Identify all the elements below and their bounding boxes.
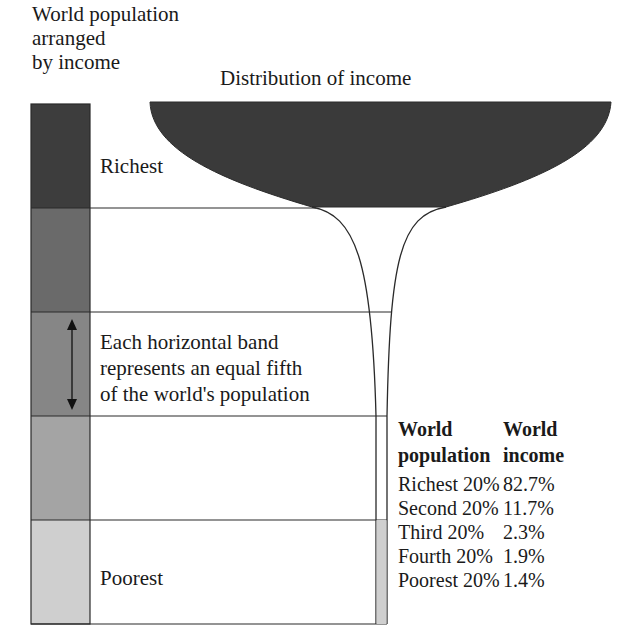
annotation-line: represents an equal fifth [100,355,310,381]
population-cell: Fourth 20% [398,544,503,568]
stem-poorest-fill [377,520,387,624]
population-cell: Second 20% [398,496,503,520]
table-row: Richest 20% 82.7% [398,472,613,496]
header-world-population: World population [398,416,503,468]
annotation-line: of the world's population [100,381,310,407]
band-fourth [31,416,90,520]
band-poorest [31,520,90,624]
band-second [31,208,90,312]
header-line: population [398,442,503,468]
table-header-row: World population World income [398,416,613,468]
label-poorest: Poorest [100,565,163,591]
label-richest: Richest [100,153,163,179]
header-line: income [503,442,613,468]
income-table: World population World income Richest 20… [398,416,613,592]
header-world-income: World income [503,416,613,468]
header-line: World [398,416,503,442]
population-cell: Richest 20% [398,472,503,496]
table-row: Third 20% 2.3% [398,520,613,544]
funnel-bowl-richest [150,102,611,207]
income-cell: 1.4% [503,568,613,592]
table-row: Second 20% 11.7% [398,496,613,520]
table-row: Fourth 20% 1.9% [398,544,613,568]
income-cell: 82.7% [503,472,613,496]
population-cell: Poorest 20% [398,568,503,592]
table-row: Poorest 20% 1.4% [398,568,613,592]
band-annotation: Each horizontal band represents an equal… [100,329,310,407]
income-cell: 2.3% [503,520,613,544]
income-cell: 11.7% [503,496,613,520]
band-third [31,312,90,416]
income-cell: 1.9% [503,544,613,568]
population-cell: Third 20% [398,520,503,544]
annotation-line: Each horizontal band [100,329,310,355]
band-richest [31,104,90,208]
header-line: World [503,416,613,442]
